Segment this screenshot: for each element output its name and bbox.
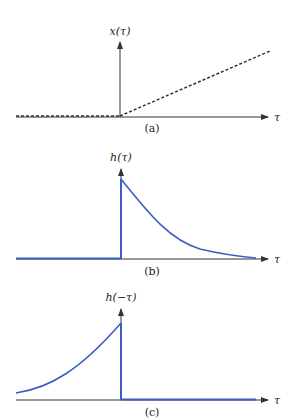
x-label-b: τ [274,253,281,266]
rising-curve-c [16,323,121,393]
y-label-c: h(−τ) [106,291,137,304]
caption-a: (a) [144,122,159,135]
panel-b: h(τ) τ (b) [16,151,281,278]
ramp-line-a [120,51,270,116]
panel-a: x(τ) τ (a) [16,25,281,135]
caption-b: (b) [144,265,160,278]
x-label-c: τ [274,394,281,407]
signal-diagram: x(τ) τ (a) h(τ) τ (b) h(−τ) τ (c) [0,0,292,420]
caption-c: (c) [145,406,160,419]
x-label-a: τ [274,111,281,124]
decay-curve-b [121,179,256,258]
y-label-a: x(τ) [110,25,131,38]
y-label-b: h(τ) [110,151,132,164]
panel-c: h(−τ) τ (c) [16,291,281,419]
